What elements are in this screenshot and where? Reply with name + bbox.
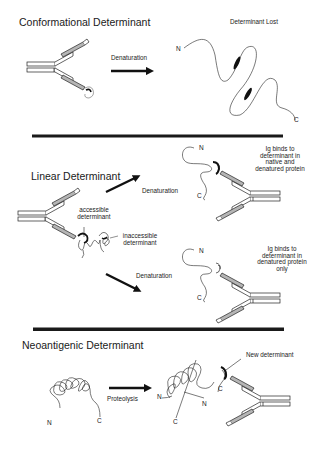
after-n1-label: N: [157, 394, 162, 401]
new-determinant-label: New determinant: [246, 352, 294, 359]
inaccessible-determinant-label: inaccessible determinant: [116, 233, 164, 246]
c-terminus-label: C: [294, 117, 299, 124]
linear-title: Linear Determinant: [31, 171, 120, 182]
lower-arrow-label: Denaturation: [136, 273, 172, 280]
folded-protein: [50, 378, 100, 417]
accessible-determinant-label: accessible determinant: [66, 207, 122, 220]
denatured-chain: [184, 39, 295, 120]
before-c-label: C: [97, 418, 102, 425]
separator-bar-1: [32, 135, 283, 138]
conformational-arrow-label: Denaturation: [111, 55, 147, 62]
diagram-graphics: [0, 0, 327, 450]
upper-c-label: C: [197, 193, 202, 200]
after-n2-label: N: [202, 401, 207, 408]
after-c1-label: C: [173, 419, 178, 426]
after-c2-label: C: [218, 386, 223, 393]
n-terminus-label: N: [176, 46, 181, 53]
proteolysis-label: Proteolysis: [107, 396, 138, 403]
caption-line: only: [247, 266, 317, 273]
upper-n-label: N: [199, 145, 204, 152]
determinant-lost-label: Determinant Lost: [230, 19, 278, 26]
linear-antibody: [18, 188, 118, 258]
diagram-canvas: Conformational Determinant Determinant L…: [0, 0, 327, 450]
caption-line: denatured protein: [245, 166, 315, 173]
upper-result-caption: Ig binds to determinant in native and de…: [245, 146, 315, 172]
upper-arrow-label: Denaturation: [142, 188, 178, 195]
lower-result-caption: Ig binds to determinant in denatured pro…: [247, 246, 317, 272]
neoantigenic-title: Neoantigenic Determinant: [22, 340, 143, 351]
before-n-label: N: [47, 420, 52, 427]
separator-bar-2: [33, 328, 284, 332]
conformational-title: Conformational Determinant: [19, 17, 150, 28]
inaccessible-line-2: determinant: [116, 240, 164, 247]
cleaved-protein: [162, 359, 290, 426]
lower-denaturation-arrow: [106, 274, 138, 290]
lower-c-label: C: [197, 295, 202, 302]
lower-n-label: N: [199, 248, 204, 255]
accessible-line-2: determinant: [66, 214, 122, 221]
conformational-antibody: [27, 39, 94, 98]
